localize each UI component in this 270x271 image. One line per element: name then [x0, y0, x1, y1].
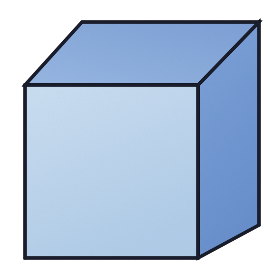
cube-front-face	[25, 85, 198, 258]
cube-diagram	[0, 0, 270, 271]
figure-canvas	[0, 0, 270, 271]
